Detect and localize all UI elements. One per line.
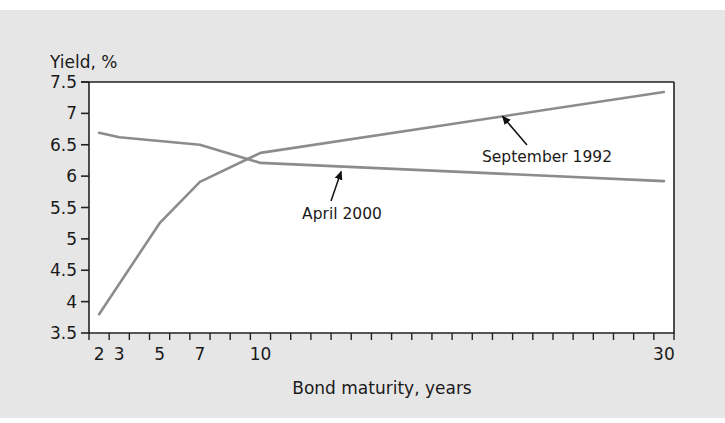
- x-tick-label: 2: [94, 344, 105, 364]
- y-tick-label: 4: [66, 292, 77, 312]
- y-tick-label: 4.5: [50, 260, 77, 280]
- x-tick-label: 30: [653, 344, 675, 364]
- y-axis-title: Yield, %: [49, 52, 117, 72]
- y-tick-label: 7.5: [50, 72, 77, 92]
- x-tick-label: 10: [250, 344, 272, 364]
- y-tick-label: 7: [66, 103, 77, 123]
- y-tick-label: 5: [66, 229, 77, 249]
- y-tick-label: 5.5: [50, 198, 77, 218]
- annotation-label: September 1992: [482, 148, 612, 166]
- x-tick-label: 3: [114, 344, 125, 364]
- x-axis-title: Bond maturity, years: [292, 378, 472, 398]
- yield-curve-chart: 7.576.565.554.543.5 23571030 Yield, % Bo…: [0, 0, 725, 423]
- annotation-label: April 2000: [302, 205, 382, 223]
- x-tick-label: 7: [195, 344, 206, 364]
- y-tick-label: 3.5: [50, 323, 77, 343]
- y-tick-label: 6: [66, 166, 77, 186]
- y-tick-label: 6.5: [50, 135, 77, 155]
- x-tick-label: 5: [154, 344, 165, 364]
